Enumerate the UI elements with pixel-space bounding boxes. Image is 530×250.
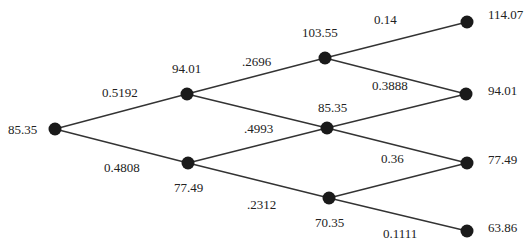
node-price-label: 85.35 [318, 100, 347, 115]
node-price-label: 77.49 [174, 180, 203, 195]
edge-probability-label: 0.3888 [372, 78, 408, 93]
tree-node-dot [460, 88, 473, 101]
node-price-label: 94.01 [172, 61, 201, 76]
tree-node-dot [461, 225, 474, 238]
tree-node-dot [461, 16, 474, 29]
edge-probability-label: .4993 [244, 121, 273, 136]
node-price-label: 77.49 [488, 152, 517, 167]
edge-probability-label: 0.1111 [383, 226, 417, 241]
tree-node-dot [321, 122, 334, 135]
edge-probability-label: 0.4808 [104, 160, 140, 175]
tree-edge [327, 94, 466, 128]
edge-probability-label: 0.14 [374, 12, 397, 27]
edge-probability-label: .2696 [242, 54, 272, 69]
tree-node-dot [319, 52, 332, 65]
edge-probability-label: .2312 [247, 197, 276, 212]
edge-probability-label: 0.5192 [102, 85, 138, 100]
tree-node-dot [182, 157, 195, 170]
node-price-label: 63.86 [488, 220, 518, 235]
binomial-tree-diagram: 0.51920.4808.2696.4993.23120.140.38880.3… [0, 0, 530, 250]
tree-node-dot [49, 123, 62, 136]
tree-node-dot [323, 192, 336, 205]
node-price-label: 114.07 [488, 7, 524, 22]
node-price-label: 103.55 [302, 25, 338, 40]
node-price-label: 94.01 [488, 83, 517, 98]
tree-node-dot [181, 88, 194, 101]
tree-edge [329, 163, 467, 198]
node-price-label: 85.35 [8, 122, 37, 137]
tree-edge [325, 22, 467, 58]
tree-edge [188, 163, 329, 198]
node-price-label: 70.35 [315, 215, 344, 230]
tree-node-dot [461, 157, 474, 170]
edge-probability-label: 0.36 [381, 151, 404, 166]
tree-edge [55, 129, 188, 163]
